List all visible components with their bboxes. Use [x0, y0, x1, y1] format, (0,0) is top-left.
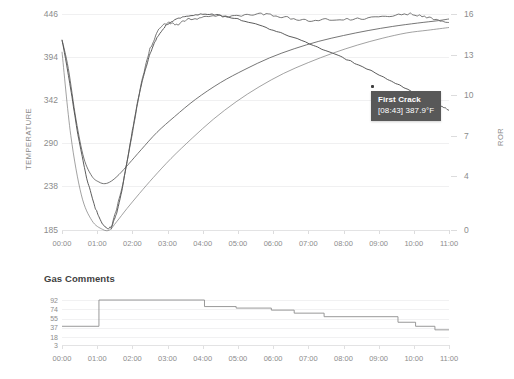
gas-x-tick-label: 04:00 [193, 354, 212, 363]
x-tick-label: 08:00 [334, 239, 353, 248]
tooltip-title: First Crack [378, 95, 434, 106]
gas-x-tick-label: 02:00 [123, 354, 142, 363]
gas-x-tick-label: 07:00 [299, 354, 318, 363]
x-tickmark [449, 230, 450, 234]
gas-y-tick-label: 92 [50, 297, 58, 304]
y-tick-label: 290 [44, 139, 58, 147]
x-tick-label: 09:00 [369, 239, 388, 248]
x-tick-label: 10:00 [404, 239, 423, 248]
main-plot-area [62, 14, 449, 230]
y2-tick-label: 16 [464, 10, 473, 18]
y2-tickmark [451, 95, 457, 96]
gas-gridline [62, 345, 449, 346]
gas-curve [62, 300, 449, 345]
gridline [62, 230, 449, 231]
y2-tickmark [451, 14, 457, 15]
gas-x-tick-label: 10:00 [404, 354, 423, 363]
gas-y-tick-label: 37 [50, 324, 58, 331]
x-tick-label: 03:00 [158, 239, 177, 248]
gas-comments-panel: Gas Comments 92745537183 00:0001:0002:00… [0, 258, 514, 379]
y2-tick-label: 4 [464, 172, 469, 180]
gas-x-tick-label: 00:00 [53, 354, 72, 363]
gas-x-tick-label: 01:00 [88, 354, 107, 363]
gas-x-tick-label: 11:00 [440, 354, 458, 363]
y2-tickmark [451, 136, 457, 137]
x-tick-label: 00:00 [53, 239, 72, 248]
tooltip-detail: [08:43] 387.9°F [378, 106, 434, 117]
gas-x-tick-label: 05:00 [229, 354, 248, 363]
gas-series-gas-setting [62, 300, 449, 330]
y2-tick-label: 7 [464, 132, 469, 140]
gas-plot-area [62, 300, 449, 345]
x-tick-label: 06:00 [264, 239, 283, 248]
series-delta-temperature [111, 13, 449, 229]
x-tick-label: 11:00 [440, 239, 458, 248]
x-tick-label: 07:00 [299, 239, 318, 248]
gas-x-tick-label: 03:00 [158, 354, 177, 363]
y-axis-title-temperature: TEMPERATURE [24, 108, 33, 170]
gas-x-tickmark [449, 345, 450, 349]
y-tick-label: 394 [44, 53, 58, 61]
first-crack-tooltip: First Crack [08:43] 387.9°F [371, 91, 441, 121]
gas-y-tick-label: 55 [50, 315, 58, 322]
x-tick-label: 05:00 [229, 239, 248, 248]
gas-y-tick-label: 74 [50, 306, 58, 313]
gas-x-tick-label: 06:00 [264, 354, 283, 363]
gas-x-tick-label: 09:00 [369, 354, 388, 363]
x-tick-label: 01:00 [88, 239, 107, 248]
y-tick-label: 185 [44, 226, 58, 234]
y2-tick-label: 10 [464, 91, 473, 99]
y2-tick-label: 0 [464, 226, 469, 234]
temperature-chart-panel: TEMPERATURE ROR 446394342290238185 16131… [0, 0, 514, 258]
gas-chart-title: Gas Comments [44, 273, 115, 284]
gas-y-tick-label: 18 [50, 334, 58, 341]
gas-x-tick-label: 08:00 [334, 354, 353, 363]
y2-tickmark [451, 230, 457, 231]
roast-chart-page: TEMPERATURE ROR 446394342290238185 16131… [0, 0, 514, 379]
y-tick-label: 342 [44, 96, 58, 104]
first-crack-marker[interactable] [371, 85, 374, 88]
y-tick-label: 238 [44, 182, 58, 190]
x-tick-label: 04:00 [193, 239, 212, 248]
x-tick-label: 02:00 [123, 239, 142, 248]
y2-tick-label: 13 [464, 51, 473, 59]
y-tick-label: 446 [44, 10, 58, 18]
gas-y-tick-label: 3 [54, 342, 58, 349]
y-axis-title-ror: ROR [496, 128, 505, 146]
y2-tickmark [451, 55, 457, 56]
main-curves [62, 14, 449, 230]
y2-tickmark [451, 176, 457, 177]
